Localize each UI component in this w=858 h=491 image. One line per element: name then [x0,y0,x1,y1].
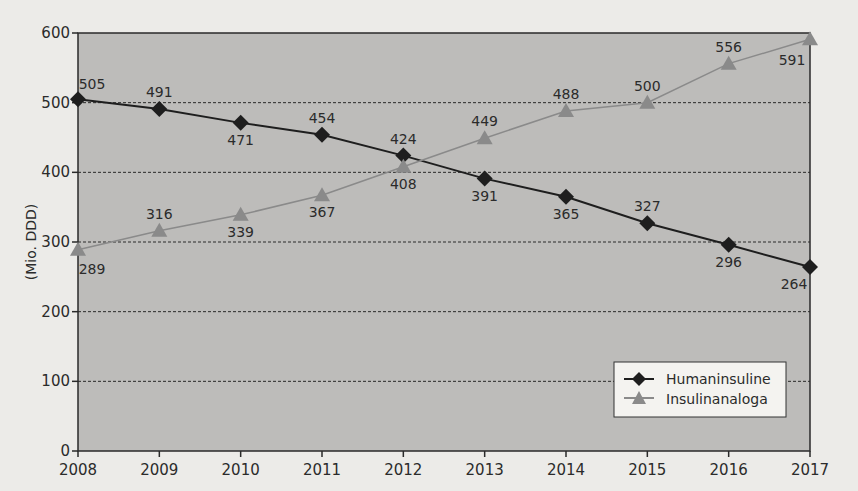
y-axis-label: (Mio. DDD) [23,204,39,280]
legend-label-humaninsuline: Humaninsuline [666,371,771,387]
data-label: 488 [553,86,580,102]
y-tick-label: 0 [60,442,70,460]
y-tick-label: 400 [41,163,70,181]
data-label: 391 [471,188,498,204]
data-label: 454 [309,110,336,126]
data-label: 339 [227,224,254,240]
y-tick-label: 200 [41,303,70,321]
x-tick-label: 2015 [628,461,666,479]
y-tick-label: 300 [41,233,70,251]
x-tick-label: 2010 [222,461,260,479]
x-tick-label: 2013 [466,461,504,479]
data-label: 591 [779,52,806,68]
data-label: 296 [715,254,742,270]
x-tick-label: 2016 [710,461,748,479]
x-tick-label: 2011 [303,461,341,479]
data-label: 500 [634,78,661,94]
legend: Humaninsuline Insulinanaloga [614,362,786,417]
y-tick-label: 100 [41,372,70,390]
data-label: 505 [79,76,106,92]
x-tick-label: 2009 [140,461,178,479]
line-chart: 0100200300400500600 20082009201020112012… [0,0,858,491]
x-axis: 2008200920102011201220132014201520162017 [59,451,829,479]
data-label: 327 [634,198,661,214]
data-label: 264 [781,276,808,292]
y-axis: 0100200300400500600 [41,24,78,460]
x-tick-label: 2008 [59,461,97,479]
y-tick-label: 600 [41,24,70,42]
data-label: 449 [471,113,498,129]
x-tick-label: 2012 [384,461,422,479]
data-label: 367 [309,204,336,220]
data-label: 365 [553,206,580,222]
data-label: 408 [390,176,417,192]
data-label: 556 [715,39,742,55]
data-label: 289 [79,261,106,277]
x-tick-label: 2014 [547,461,585,479]
data-label: 424 [390,131,417,147]
x-tick-label: 2017 [791,461,829,479]
data-label: 471 [227,132,254,148]
data-label: 316 [146,206,173,222]
y-tick-label: 500 [41,94,70,112]
legend-label-insulinanaloga: Insulinanaloga [666,391,768,407]
data-label: 491 [146,84,173,100]
